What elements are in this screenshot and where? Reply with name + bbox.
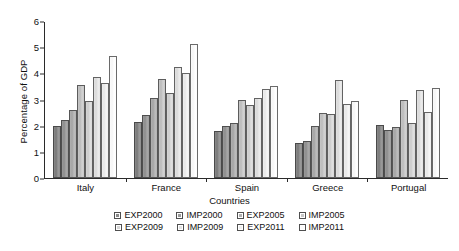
bar[interactable] bbox=[190, 44, 198, 178]
bar[interactable] bbox=[327, 114, 335, 178]
bar[interactable] bbox=[270, 86, 278, 178]
y-tick-mark bbox=[40, 126, 44, 127]
bar[interactable] bbox=[351, 101, 359, 178]
legend-item[interactable]: EXP2009 bbox=[115, 222, 163, 232]
legend-item[interactable]: IMP2000 bbox=[176, 210, 222, 220]
bar[interactable] bbox=[150, 98, 158, 178]
bar[interactable] bbox=[158, 79, 166, 178]
bar[interactable] bbox=[303, 141, 311, 178]
x-tick-label: Spain bbox=[207, 182, 288, 193]
y-tick-mark bbox=[40, 48, 44, 49]
y-tick-mark bbox=[40, 74, 44, 75]
bar-group bbox=[45, 22, 126, 178]
bar[interactable] bbox=[424, 112, 432, 178]
bar[interactable] bbox=[182, 73, 190, 178]
bar-group bbox=[367, 22, 448, 178]
y-tick-mark bbox=[40, 22, 44, 23]
bar[interactable] bbox=[222, 126, 230, 178]
legend-item[interactable]: IMP2005 bbox=[299, 210, 345, 220]
bar[interactable] bbox=[295, 143, 303, 178]
bar[interactable] bbox=[254, 98, 262, 178]
bar-group bbox=[206, 22, 287, 178]
legend-swatch-icon bbox=[177, 224, 184, 231]
x-axis-title: Countries bbox=[0, 195, 459, 206]
legend-row-1: EXP2000IMP2000EXP2005IMP2005 bbox=[0, 210, 459, 220]
legend-label: EXP2000 bbox=[124, 210, 162, 220]
legend-row-2: EXP2009IMP2009EXP2011IMP2011 bbox=[0, 222, 459, 232]
bar[interactable] bbox=[230, 123, 238, 178]
legend-label: IMP2011 bbox=[309, 222, 344, 232]
legend-label: EXP2011 bbox=[247, 222, 284, 232]
bar[interactable] bbox=[392, 127, 400, 178]
bar-chart: Percentage of GDP 0123456 ItalyFranceSpa… bbox=[0, 0, 459, 251]
bar[interactable] bbox=[376, 125, 384, 178]
plot-area: 0123456 bbox=[44, 22, 448, 179]
legend-item[interactable]: IMP2011 bbox=[299, 222, 344, 232]
legend-swatch-icon bbox=[176, 212, 183, 219]
legend-label: EXP2005 bbox=[247, 210, 285, 220]
legend-label: IMP2009 bbox=[187, 222, 223, 232]
x-axis-labels: ItalyFranceSpainGreecePortugal bbox=[45, 182, 449, 193]
bar-groups bbox=[45, 22, 448, 178]
bar-group bbox=[126, 22, 207, 178]
y-tick-mark bbox=[40, 179, 44, 180]
x-axis-line bbox=[44, 178, 448, 179]
legend-swatch-icon bbox=[115, 224, 122, 231]
bar[interactable] bbox=[408, 123, 416, 178]
bar[interactable] bbox=[93, 77, 101, 178]
bar[interactable] bbox=[101, 83, 109, 179]
bar[interactable] bbox=[142, 115, 150, 178]
legend-swatch-icon bbox=[114, 212, 121, 219]
bar[interactable] bbox=[53, 126, 61, 178]
bar[interactable] bbox=[134, 122, 142, 178]
bar[interactable] bbox=[400, 100, 408, 179]
y-tick-mark bbox=[40, 152, 44, 153]
legend-swatch-icon bbox=[299, 224, 306, 231]
bar[interactable] bbox=[61, 120, 69, 178]
legend-item[interactable]: IMP2009 bbox=[177, 222, 223, 232]
bar[interactable] bbox=[166, 93, 174, 178]
bar[interactable] bbox=[311, 126, 319, 178]
legend-item[interactable]: EXP2000 bbox=[114, 210, 162, 220]
bar[interactable] bbox=[416, 90, 424, 178]
bar[interactable] bbox=[77, 85, 85, 178]
y-axis-title: Percentage of GDP bbox=[18, 27, 29, 177]
bar[interactable] bbox=[246, 105, 254, 178]
legend-swatch-icon bbox=[237, 224, 244, 231]
y-tick-mark bbox=[40, 100, 44, 101]
bar[interactable] bbox=[174, 67, 182, 178]
bar[interactable] bbox=[319, 113, 327, 178]
bar[interactable] bbox=[262, 89, 270, 178]
chart-legend: EXP2000IMP2000EXP2005IMP2005 EXP2009IMP2… bbox=[0, 210, 459, 234]
legend-item[interactable]: EXP2005 bbox=[237, 210, 285, 220]
bar[interactable] bbox=[384, 130, 392, 178]
bar-group bbox=[287, 22, 368, 178]
legend-label: IMP2000 bbox=[186, 210, 222, 220]
bar[interactable] bbox=[343, 104, 351, 178]
legend-label: IMP2005 bbox=[309, 210, 345, 220]
legend-item[interactable]: EXP2011 bbox=[237, 222, 284, 232]
bar[interactable] bbox=[69, 110, 77, 178]
bar[interactable] bbox=[85, 101, 93, 178]
x-tick-label: Portugal bbox=[368, 182, 449, 193]
legend-swatch-icon bbox=[237, 212, 244, 219]
legend-swatch-icon bbox=[299, 212, 306, 219]
bar[interactable] bbox=[335, 80, 343, 178]
bar[interactable] bbox=[238, 100, 246, 178]
x-tick-label: France bbox=[126, 182, 207, 193]
bar[interactable] bbox=[432, 88, 440, 178]
legend-label: EXP2009 bbox=[125, 222, 163, 232]
bar[interactable] bbox=[109, 56, 117, 178]
bar[interactable] bbox=[214, 131, 222, 178]
x-tick-label: Greece bbox=[287, 182, 368, 193]
x-tick-label: Italy bbox=[45, 182, 126, 193]
